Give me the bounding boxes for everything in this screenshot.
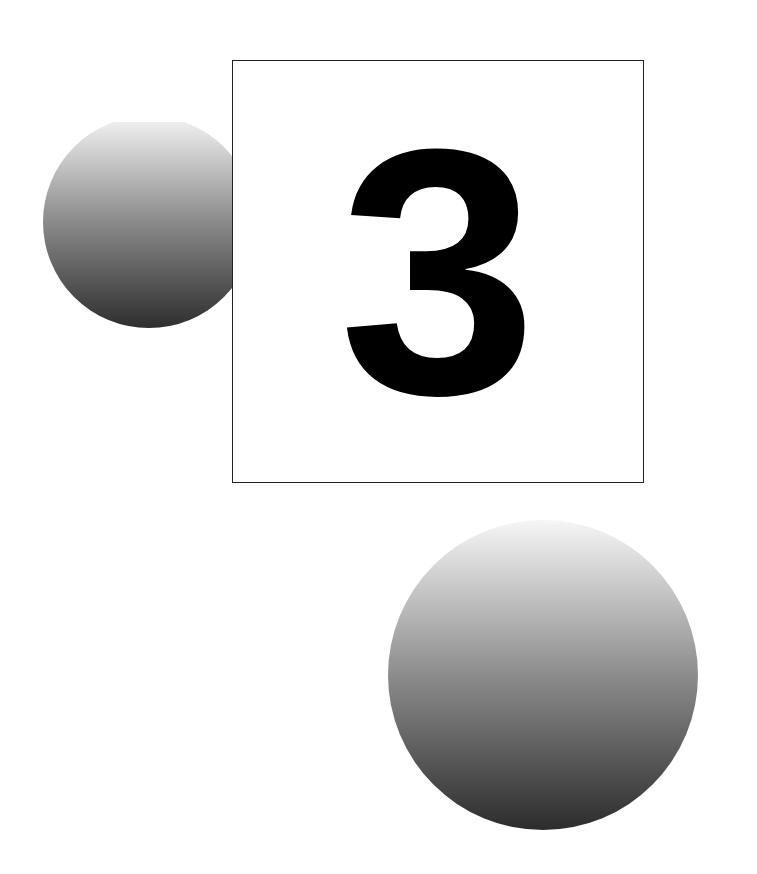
numeral-three: 3 [229, 61, 647, 482]
numeral-card: 3 [232, 60, 644, 483]
small-sphere [43, 116, 255, 328]
large-sphere [388, 520, 698, 830]
